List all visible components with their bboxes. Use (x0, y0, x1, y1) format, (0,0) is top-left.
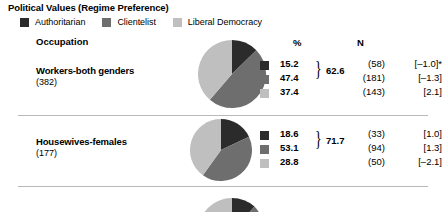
data-swatch-authoritarian (260, 61, 269, 70)
legend-swatch-clientelist (102, 18, 111, 27)
legend-label-authoritarian: Authoritarian (35, 17, 85, 27)
data-percent: 15.2 (280, 58, 299, 69)
pie-svg-partial (196, 196, 268, 212)
brace-total: 62.6 (326, 65, 345, 76)
data-residual: [–1.0]* (400, 58, 442, 69)
column-header-percent: % (293, 37, 301, 48)
pie-chart-workers (196, 38, 268, 114)
data-swatch-clientelist (260, 75, 269, 84)
data-swatch-clientelist (260, 145, 269, 154)
brace-glyph: } (315, 57, 322, 79)
data-residual: [–1.3] (400, 72, 442, 83)
data-count: (33) (355, 128, 385, 139)
data-percent: 53.1 (280, 142, 299, 153)
column-header-n: N (357, 37, 364, 48)
data-residual: [–2.1] (400, 156, 442, 167)
row-label-workers: Workers-both genders (36, 65, 134, 76)
brace-glyph: } (315, 127, 322, 149)
legend-swatch-liberal-democracy (173, 18, 182, 27)
pie-chart-partial-next-row (196, 196, 268, 212)
data-percent: 47.4 (280, 72, 299, 83)
data-swatch-liberal-democracy (260, 89, 269, 98)
data-count: (58) (355, 58, 385, 69)
pie-slice-authoritarian (232, 198, 255, 212)
row-count-housewives: (177) (36, 148, 57, 158)
legend-label-liberal-democracy: Liberal Democracy (188, 17, 262, 27)
data-count: (94) (355, 142, 385, 153)
data-residual: [1.3] (400, 142, 442, 153)
data-swatch-liberal-democracy (260, 159, 269, 168)
data-percent: 28.8 (280, 156, 299, 167)
figure-title: Political Values (Regime Preference) (8, 2, 169, 13)
data-residual: [1.0] (400, 128, 442, 139)
data-percent: 37.4 (280, 86, 299, 97)
legend-label-clientelist: Clientelist (117, 17, 155, 27)
pie-slice-liberal-democracy (198, 198, 232, 212)
row-count-workers: (382) (36, 77, 57, 87)
data-swatch-authoritarian (260, 131, 269, 140)
data-count: (143) (355, 86, 385, 97)
column-header-occupation: Occupation (36, 36, 88, 47)
legend-swatch-authoritarian (20, 18, 29, 27)
row-label-housewives: Housewives-females (36, 136, 127, 147)
data-residual: [2.1] (400, 86, 442, 97)
data-count: (181) (355, 72, 385, 83)
data-count: (50) (355, 156, 385, 167)
pie-chart-housewives (188, 117, 254, 187)
political-values-figure: Political Values (Regime Preference) Aut… (0, 0, 446, 212)
brace-total: 71.7 (326, 135, 345, 146)
data-percent: 18.6 (280, 128, 299, 139)
legend: Authoritarian Clientelist Liberal Democr… (20, 17, 262, 27)
pie-svg-workers (196, 38, 268, 110)
legend-item-authoritarian: Authoritarian (20, 17, 85, 27)
legend-item-liberal-democracy: Liberal Democracy (173, 17, 262, 27)
legend-item-clientelist: Clientelist (102, 17, 155, 27)
row-separator (18, 115, 428, 116)
pie-svg-housewives (188, 117, 254, 183)
row-separator (18, 186, 428, 187)
